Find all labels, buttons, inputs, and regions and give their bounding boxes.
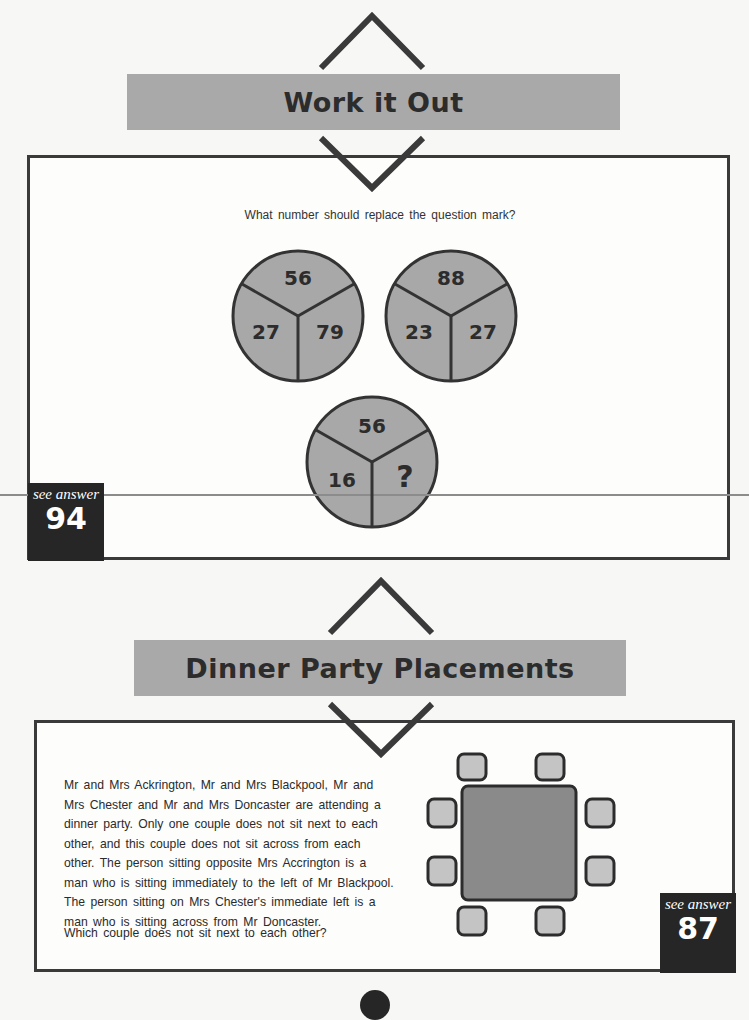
seating-diagram [424, 752, 620, 942]
circle-left-value: 23 [405, 320, 433, 344]
puzzle-question: Which couple does not sit next to each o… [64, 924, 394, 944]
circle-right-value: 79 [316, 320, 344, 344]
circle-left-value: 16 [328, 468, 356, 492]
seat-icon [428, 857, 456, 885]
see-answer-label: see answer [28, 483, 104, 502]
see-answer-tab[interactable]: see answer 94 [28, 483, 104, 561]
chevron-down-icon [327, 700, 437, 758]
number-circle-1: 56 27 79 [230, 248, 366, 384]
see-answer-tab[interactable]: see answer 87 [660, 893, 736, 973]
number-circle-2: 88 23 27 [383, 248, 519, 384]
circle-top-value: 56 [358, 414, 386, 438]
puzzle-description: Mr and Mrs Ackrington, Mr and Mrs Blackp… [64, 776, 394, 932]
circle-top-value: 88 [437, 266, 465, 290]
seat-icon [586, 799, 614, 827]
answer-page-number: 87 [660, 912, 736, 946]
seat-icon [586, 857, 614, 885]
see-answer-label: see answer [660, 893, 736, 912]
seat-icon [536, 907, 564, 935]
chevron-up-icon [318, 10, 428, 72]
number-circle-3: 56 16 ? [304, 394, 440, 530]
puzzle-title: Dinner Party Placements [185, 653, 574, 684]
puzzle-title-banner: Dinner Party Placements [134, 640, 626, 696]
chevron-down-icon [318, 134, 428, 192]
seat-icon [458, 754, 486, 780]
seat-icon [536, 754, 564, 780]
seat-icon [458, 907, 486, 935]
page-marker [360, 990, 390, 1020]
puzzle-question: What number should replace the question … [220, 208, 540, 222]
circle-right-value: 27 [469, 320, 497, 344]
circle-top-value: 56 [284, 266, 312, 290]
answer-page-number: 94 [28, 502, 104, 536]
circle-left-value: 27 [252, 320, 280, 344]
table-icon [462, 786, 576, 900]
seat-icon [428, 799, 456, 827]
question-mark: ? [396, 459, 413, 494]
chevron-up-icon [327, 575, 437, 637]
puzzle-title: Work it Out [283, 87, 463, 118]
puzzle-title-banner: Work it Out [127, 74, 620, 130]
